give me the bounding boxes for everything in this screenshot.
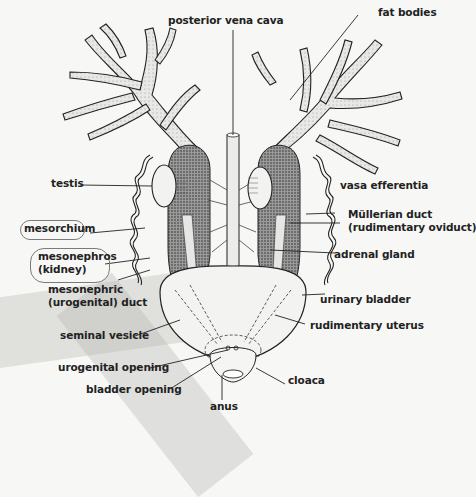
label-bladder-opening: bladder opening: [86, 383, 182, 396]
label-mullerian-duct-sub: (rudimentary oviduct): [348, 221, 476, 234]
label-posterior-vena-cava: posterior vena cava: [168, 14, 283, 27]
label-anus: anus: [210, 400, 238, 413]
label-urinary-bladder: urinary bladder: [320, 293, 411, 306]
label-urogenital-opening: urogenital opening: [58, 361, 169, 374]
anus: [223, 370, 243, 378]
label-mesorchium: mesorchium: [24, 222, 95, 235]
label-mullerian-duct: Müllerian duct: [348, 208, 432, 221]
fat-body-left: [63, 24, 200, 160]
label-cloaca: cloaca: [288, 374, 325, 387]
label-testis: testis: [51, 177, 84, 190]
label-adrenal-gland: adrenal gland: [334, 248, 415, 261]
label-fat-bodies: fat bodies: [378, 6, 437, 19]
label-mesonephric-duct: mesonephric: [48, 283, 123, 296]
vena-cava: [227, 135, 239, 285]
label-mesonephros-sub: (kidney): [38, 263, 86, 276]
label-mesonephros: mesonephros: [38, 250, 117, 263]
label-seminal-vesicle: seminal vesicle: [60, 329, 149, 342]
label-mesonephric-duct-sub: (urogenital) duct: [48, 296, 147, 309]
label-rudimentary-uterus: rudimentary uterus: [310, 319, 424, 332]
testis-left: [152, 165, 176, 207]
label-vasa-efferentia: vasa efferentia: [340, 179, 428, 192]
